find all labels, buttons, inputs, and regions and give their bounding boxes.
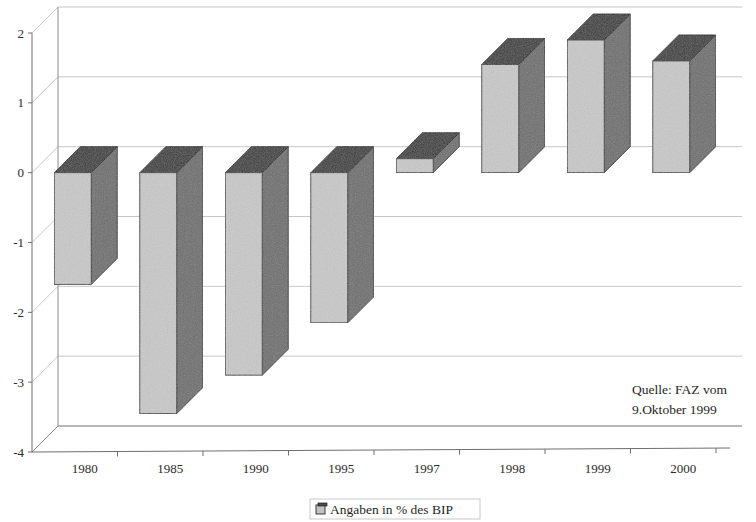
x-tick-label: 1980 — [72, 461, 98, 476]
bar-front-face — [311, 173, 348, 323]
bar — [225, 147, 288, 376]
bar-side-face — [604, 14, 630, 173]
bar-front-face — [140, 173, 177, 414]
y-tick-label: -2 — [13, 305, 24, 320]
bar-front-face — [567, 40, 604, 173]
bar-front-face — [482, 64, 519, 172]
x-tick-label: 1985 — [157, 461, 183, 476]
bar — [311, 147, 374, 323]
y-tick-label: -3 — [13, 375, 24, 390]
x-tick-label: 1995 — [328, 461, 354, 476]
x-tick-label: 1998 — [499, 461, 525, 476]
chart-canvas: 210-1-2-3-4 1980198519901995199719981999… — [0, 0, 756, 522]
bar — [653, 35, 716, 173]
x-tick-label: 1997 — [414, 461, 441, 476]
bar-front-face — [653, 61, 690, 173]
bar-front-face — [225, 173, 262, 376]
x-tick-label: 1999 — [585, 461, 611, 476]
bar-side-face — [348, 147, 374, 323]
legend-label: Angaben in % des BIP — [330, 502, 453, 517]
bar — [482, 38, 545, 172]
bar-front-face — [54, 173, 91, 285]
y-tick-label: 2 — [18, 26, 25, 41]
bar-chart: 210-1-2-3-4 1980198519901995199719981999… — [0, 0, 756, 522]
bar — [567, 14, 630, 173]
legend: Angaben in % des BIP — [310, 499, 480, 519]
legend-swatch-icon — [316, 503, 327, 514]
y-tick-label: -4 — [13, 445, 24, 460]
bar-side-face — [262, 147, 288, 376]
bar — [54, 147, 117, 285]
y-tick-label: 1 — [18, 95, 25, 110]
y-tick-label: 0 — [18, 165, 25, 180]
source-line-1: Quelle: FAZ vom — [632, 382, 727, 397]
bar-front-face — [396, 159, 433, 173]
y-tick-label: -1 — [13, 235, 24, 250]
x-tick-label: 2000 — [670, 461, 696, 476]
source-line-2: 9.Oktober 1999 — [632, 402, 717, 417]
bar-side-face — [177, 147, 203, 414]
x-tick-label: 1990 — [243, 461, 269, 476]
bar — [140, 147, 203, 414]
